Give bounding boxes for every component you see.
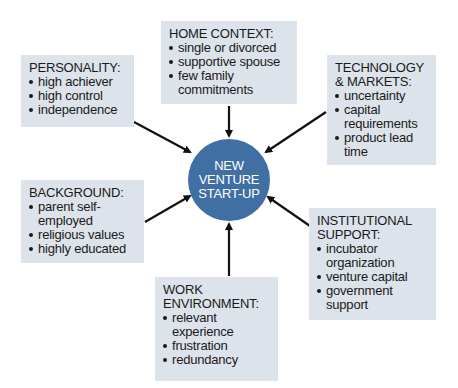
list-item: religious values <box>29 228 137 242</box>
list-item: single or divorced <box>169 41 290 55</box>
arrow-technology-markets <box>266 112 326 152</box>
list-item: high achiever <box>29 75 127 89</box>
list-item: few family commitments <box>169 69 266 97</box>
background-title: BACKGROUND: <box>29 186 137 200</box>
technology-markets-box: TECHNOLOGY & MARKETS: uncertainty capita… <box>327 55 436 165</box>
list-item: venture capital <box>317 270 429 284</box>
list-item: highly educated <box>29 242 137 256</box>
list-item: parent self-employed <box>29 200 128 228</box>
institutional-support-list: incubator organization venture capital g… <box>317 242 429 312</box>
home-context-box: HOME CONTEXT: single or divorced support… <box>161 21 297 104</box>
list-item: relevant experience <box>163 311 252 339</box>
home-context-list: single or divorced supportive spouse few… <box>169 41 290 97</box>
arrow-personality <box>134 122 190 152</box>
arrow-background <box>145 196 190 222</box>
list-item: uncertainty <box>335 89 429 103</box>
list-item: capital requirements <box>335 103 428 131</box>
background-box: BACKGROUND: parent self-employed religio… <box>21 180 144 263</box>
institutional-support-box: INSTITUTIONAL SUPPORT: incubator organiz… <box>309 208 436 320</box>
list-item: supportive spouse <box>169 55 290 69</box>
personality-title: PERSONALITY: <box>29 61 127 75</box>
personality-box: PERSONALITY: high achiever high control … <box>21 55 134 127</box>
background-list: parent self-employed religious values hi… <box>29 200 137 256</box>
institutional-support-title: INSTITUTIONAL SUPPORT: <box>317 214 429 242</box>
technology-markets-title: TECHNOLOGY & MARKETS: <box>335 61 429 89</box>
new-venture-startup-node: NEW VENTURE START-UP <box>188 139 270 221</box>
list-item: incubator organization <box>317 242 414 270</box>
list-item: high control <box>29 89 127 103</box>
technology-markets-list: uncertainty capital requirements product… <box>335 89 429 159</box>
work-environment-list: relevant experience frustration redundan… <box>163 311 271 367</box>
work-environment-title: WORK ENVIRONMENT: <box>163 283 271 311</box>
personality-list: high achiever high control independence <box>29 75 127 117</box>
venture-diagram: HOME CONTEXT: single or divorced support… <box>0 0 458 388</box>
list-item: redundancy <box>163 353 271 367</box>
home-context-title: HOME CONTEXT: <box>169 27 290 41</box>
list-item: product lead time <box>335 131 428 159</box>
work-environment-box: WORK ENVIRONMENT: relevant experience fr… <box>155 277 278 381</box>
list-item: frustration <box>163 339 271 353</box>
list-item: independence <box>29 103 127 117</box>
list-item: government support <box>317 284 414 312</box>
arrow-institutional-support <box>268 197 310 226</box>
